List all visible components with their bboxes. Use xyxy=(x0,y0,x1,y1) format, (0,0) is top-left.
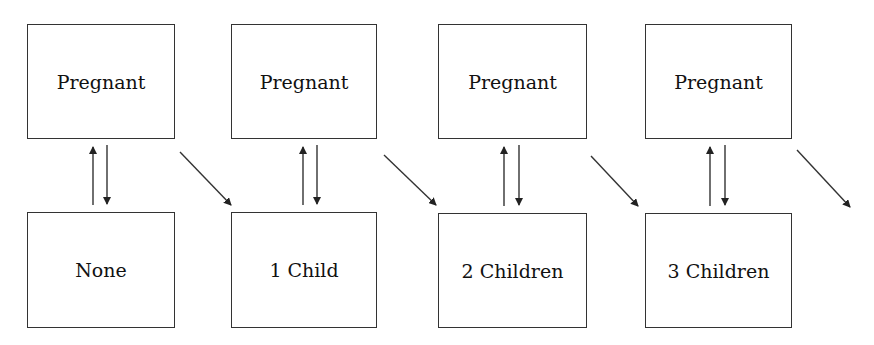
arrow-diagonal-icon xyxy=(591,156,638,206)
arrow-diagonal-icon xyxy=(180,152,231,205)
transition-arrows xyxy=(0,0,874,345)
arrow-diagonal-icon xyxy=(797,150,850,207)
arrow-diagonal-icon xyxy=(384,155,436,205)
